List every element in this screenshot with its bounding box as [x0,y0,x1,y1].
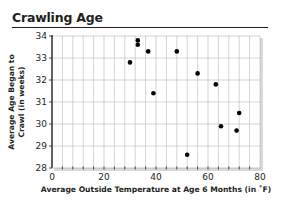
data-point [195,71,200,76]
x-tick-label: 60 [202,172,214,182]
x-tick-label: 0 [49,172,55,182]
data-point [175,49,180,54]
chart-shadow [52,36,263,171]
data-point [237,111,242,116]
grid [52,36,260,168]
y-axis-title: Average Age Began toCrawl (in weeks) [7,54,26,149]
data-point [128,60,133,65]
y-axis-title-line: Crawl (in weeks) [17,66,26,137]
y-tick-label: 32 [36,75,47,85]
y-tick-labels: 28293031323334 [36,31,48,173]
y-tick-label: 33 [36,53,47,63]
x-axis-title: Average Outside Temperature at Age 6 Mon… [41,185,271,194]
data-point [151,91,156,96]
data-point [234,128,239,133]
data-point [185,153,190,158]
y-tick-label: 31 [36,97,47,107]
data-point [219,124,224,129]
data-point [136,38,141,43]
y-tick-label: 28 [36,163,48,173]
data-point [136,43,141,48]
y-tick-label: 30 [36,119,48,129]
x-tick-label: 80 [254,172,266,182]
x-tick-label: 20 [98,172,110,182]
x-tick-labels: 020406080 [49,172,266,182]
x-tick-label: 40 [150,172,162,182]
y-axis-title-line: Average Age Began to [7,54,16,149]
data-point [146,49,151,54]
y-tick-label: 34 [36,31,48,41]
data-point [214,82,219,87]
scatter-plot: 28293031323334 020406080 Average Age Beg… [0,0,281,208]
y-tick-label: 29 [36,141,48,151]
